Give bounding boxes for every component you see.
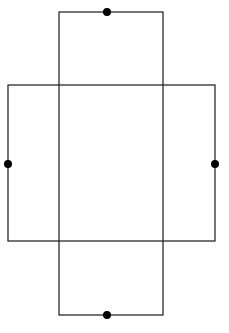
dot-right [211,160,219,168]
dot-bottom [103,311,111,319]
edge-dots [4,8,219,319]
dot-left [4,160,12,168]
dot-top [103,8,111,16]
vertical-rectangle [59,12,163,315]
horizontal-rectangle [8,85,215,241]
cross-net-diagram [0,0,229,333]
